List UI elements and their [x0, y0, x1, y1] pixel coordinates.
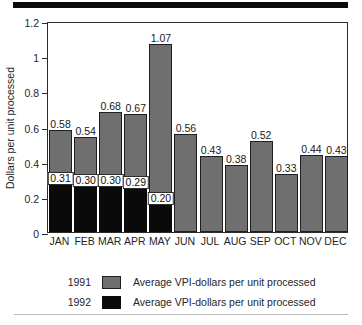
bar-1991[interactable] — [325, 156, 348, 232]
legend-row-1992: 1992 Average VPI-dollars per unit proces… — [47, 292, 348, 312]
bar-value-label-1992: 0.20 — [148, 192, 174, 205]
bar-slot: 0.43 — [199, 23, 224, 232]
y-axis-tick-label: 1.2 — [24, 18, 39, 28]
legend-year-1992: 1992 — [47, 296, 91, 308]
legend-year-1991: 1991 — [47, 276, 91, 288]
bar-value-label-1992: 0.30 — [72, 174, 98, 187]
bar-value-label-1991: 0.52 — [251, 130, 271, 141]
plot-area: 00.20.40.60.811.2 0.580.310.540.300.680.… — [47, 22, 348, 233]
bar-value-label-1992: 0.29 — [123, 176, 149, 189]
y-axis-tick-label: 0.6 — [24, 124, 39, 134]
page-top-rule — [13, 2, 348, 8]
x-axis-label-feb: FEB — [72, 235, 97, 247]
bar-value-label-1992: 0.31 — [47, 172, 73, 185]
bar-1991[interactable] — [200, 156, 223, 232]
x-axis-label-sep: SEP — [248, 235, 273, 247]
bar-slot: 0.44 — [299, 23, 324, 232]
bar-slot: 0.52 — [249, 23, 274, 232]
x-axis-label-mar: MAR — [97, 235, 122, 247]
bar-1991[interactable] — [250, 141, 273, 232]
x-axis-label-apr: APR — [122, 235, 147, 247]
legend-swatch-1992 — [102, 296, 121, 309]
bar-value-label-1992: 0.30 — [97, 174, 123, 187]
bar-value-label-1991: 0.44 — [301, 144, 321, 155]
x-axis-label-jul: JUL — [198, 235, 223, 247]
legend-text-1991: Average VPI-dollars per unit processed — [133, 276, 316, 288]
bar-slot: 0.670.29 — [123, 23, 148, 232]
bar-value-label-1991: 0.54 — [75, 126, 95, 137]
legend-swatch-1991 — [102, 276, 121, 289]
legend-text-1992: Average VPI-dollars per unit processed — [133, 296, 316, 308]
chart-page: Dollars per unit processed 00.20.40.60.8… — [0, 0, 362, 325]
bar-value-label-1991: 0.43 — [201, 145, 221, 156]
bar-slot: 1.070.20 — [148, 23, 173, 232]
bar-value-label-1991: 0.67 — [126, 103, 146, 114]
y-axis-tick-label: 1 — [33, 53, 39, 63]
bar-slot: 0.580.31 — [48, 23, 73, 232]
bar-1991[interactable] — [225, 165, 248, 232]
x-axis-label-oct: OCT — [273, 235, 298, 247]
bar-slot: 0.56 — [173, 23, 198, 232]
x-axis-label-jan: JAN — [47, 235, 72, 247]
y-axis-title: Dollars per unit processed — [2, 22, 18, 233]
y-axis-tick-label: 0 — [33, 229, 39, 239]
bar-slot: 0.680.30 — [98, 23, 123, 232]
bar-slot: 0.38 — [224, 23, 249, 232]
bar-1991[interactable] — [300, 155, 323, 232]
page-bottom-rule — [14, 314, 348, 315]
bar-1991[interactable] — [275, 174, 298, 232]
chart-legend: 1991 Average VPI-dollars per unit proces… — [47, 272, 348, 312]
x-axis-label-nov: NOV — [298, 235, 323, 247]
y-axis-tick-label: 0.2 — [24, 194, 39, 204]
bar-value-label-1991: 0.68 — [100, 101, 120, 112]
bar-1992[interactable] — [49, 178, 72, 233]
bar-value-label-1991: 0.38 — [226, 154, 246, 165]
y-axis-tick-label: 0.4 — [24, 159, 39, 169]
x-axis-label-may: MAY — [147, 235, 172, 247]
bar-group: 0.580.310.540.300.680.300.670.291.070.20… — [48, 23, 347, 232]
bar-value-label-1991: 0.43 — [326, 145, 346, 156]
x-axis-label-dec: DEC — [323, 235, 348, 247]
x-axis-label-aug: AUG — [223, 235, 248, 247]
x-axis-label-jun: JUN — [172, 235, 197, 247]
bar-slot: 0.33 — [274, 23, 299, 232]
legend-row-1991: 1991 Average VPI-dollars per unit proces… — [47, 272, 348, 292]
bar-1991[interactable] — [174, 134, 197, 232]
bar-value-label-1991: 0.58 — [50, 119, 70, 130]
bar-value-label-1991: 0.33 — [276, 163, 296, 174]
y-axis-title-label: Dollars per unit processed — [4, 67, 16, 189]
bar-slot: 0.43 — [324, 23, 349, 232]
bar-value-label-1991: 0.56 — [176, 123, 196, 134]
y-axis-tick-label: 0.8 — [24, 88, 39, 98]
bar-slot: 0.540.30 — [73, 23, 98, 232]
bar-value-label-1991: 1.07 — [151, 33, 171, 44]
